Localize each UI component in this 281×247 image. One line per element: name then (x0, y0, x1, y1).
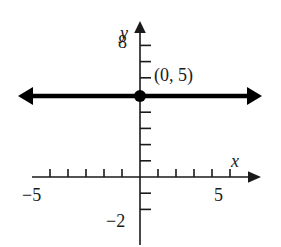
y-axis-group (134, 21, 151, 245)
y-tick-label-8: 8 (118, 33, 127, 51)
plotted-point-marker (134, 90, 146, 102)
y-axis-arrowhead-top (134, 21, 146, 33)
x-axis-arrowhead-right (248, 171, 261, 183)
line-arrowhead-left (18, 87, 33, 105)
x-tick-label-5: 5 (214, 186, 223, 204)
graph-canvas (0, 0, 281, 247)
coordinate-plane-figure: y 8 (0, 5) x −5 5 −2 (0, 0, 281, 247)
point-annotation-label: (0, 5) (154, 66, 193, 84)
y-axis-ticks (140, 45, 151, 209)
line-arrowhead-right (247, 87, 262, 105)
x-axis-label: x (231, 152, 239, 170)
x-tick-label-negative-5: −5 (22, 186, 41, 204)
x-axis-group (32, 169, 261, 183)
y-tick-label-negative-2: −2 (106, 212, 125, 230)
